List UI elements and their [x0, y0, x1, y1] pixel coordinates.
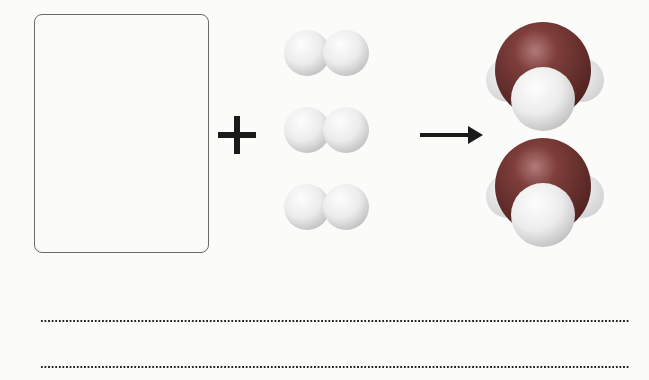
h2o-molecule-2	[486, 138, 604, 247]
answer-line-2[interactable]	[40, 366, 629, 368]
h2o-molecule-1	[486, 22, 604, 131]
h2-molecule-3	[284, 184, 369, 230]
reaction-illustration	[0, 0, 649, 380]
reaction-arrow-icon	[420, 126, 483, 144]
h2-molecule-1	[284, 30, 369, 76]
answer-line-1[interactable]	[40, 320, 629, 322]
h2-molecule-2	[284, 107, 369, 153]
